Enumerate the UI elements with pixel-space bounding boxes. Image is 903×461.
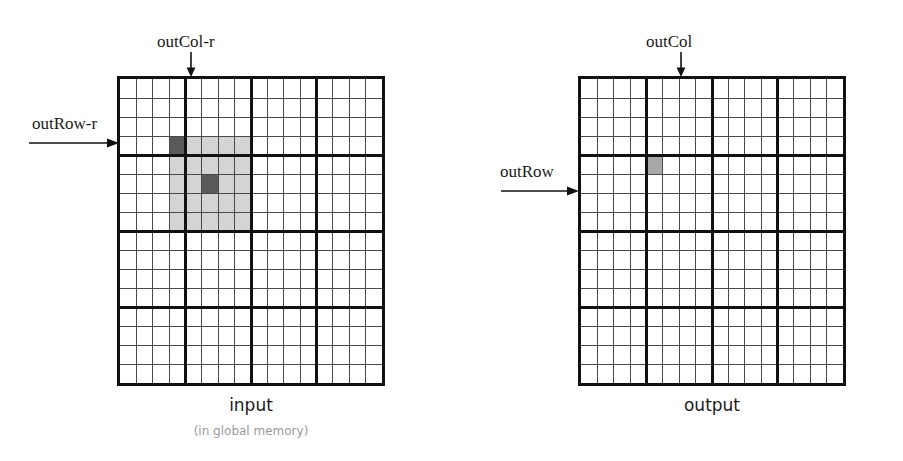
grid-cell-shaded — [202, 212, 218, 231]
grid-cell-shaded — [647, 155, 663, 174]
output-caption: output — [578, 397, 846, 414]
grid-cell-shaded — [186, 212, 202, 231]
input-caption-subtitle: (in global memory) — [117, 425, 385, 437]
tile-boundary-horizontal — [581, 306, 843, 309]
grid-cell-shaded — [202, 155, 218, 174]
grid-cell-shaded — [218, 155, 234, 174]
grid-cell-shaded — [218, 136, 234, 155]
input-top-label: outCol-r — [157, 33, 215, 50]
input-grid — [117, 76, 385, 386]
diagram-canvas: outCol-r outRow-r input (in global memor… — [0, 0, 903, 461]
input-caption: input — [117, 397, 385, 414]
grid-cell-shaded — [186, 155, 202, 174]
grid-cell-shaded — [218, 174, 234, 193]
input-left-arrow-icon — [29, 133, 121, 153]
grid-cell-shaded — [202, 193, 218, 212]
tile-boundary-horizontal — [120, 230, 382, 233]
grid-cell-shaded — [186, 136, 202, 155]
tile-boundary-horizontal — [581, 230, 843, 233]
tile-boundary-horizontal — [120, 154, 382, 157]
input-left-label: outRow-r — [32, 115, 97, 132]
grid-cell-shaded — [186, 193, 202, 212]
grid-cell-shaded — [218, 212, 234, 231]
tile-boundary-horizontal — [581, 154, 843, 157]
output-left-label: outRow — [500, 163, 554, 180]
grid-cell-shaded — [202, 174, 218, 193]
tile-boundary-horizontal — [120, 306, 382, 309]
output-top-label: outCol — [646, 33, 692, 50]
output-left-arrow-icon — [501, 181, 581, 201]
input-top-arrow-icon — [180, 52, 202, 78]
grid-cell-shaded — [218, 193, 234, 212]
grid-cell-shaded — [202, 136, 218, 155]
output-grid — [578, 76, 846, 386]
output-top-arrow-icon — [670, 52, 692, 78]
grid-cell-shaded — [186, 174, 202, 193]
